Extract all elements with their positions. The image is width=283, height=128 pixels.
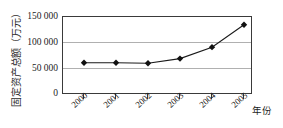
x-axis-tick-labels: 2000 2001 2002 2003 2004 2005: [0, 0, 283, 128]
chart-container: 固定资产总额（万元） 150 000 100 000 50 000 0 2000…: [0, 0, 283, 128]
x-tick-label-2001: 2001: [102, 91, 121, 110]
x-axis-title: 年份: [252, 106, 272, 116]
x-tick-label-2003: 2003: [166, 91, 185, 110]
x-tick-label-2002: 2002: [134, 91, 153, 110]
x-tick-label-2004: 2004: [198, 91, 217, 110]
x-tick-label-2000: 2000: [70, 91, 89, 110]
x-tick-label-2005: 2005: [230, 91, 249, 110]
